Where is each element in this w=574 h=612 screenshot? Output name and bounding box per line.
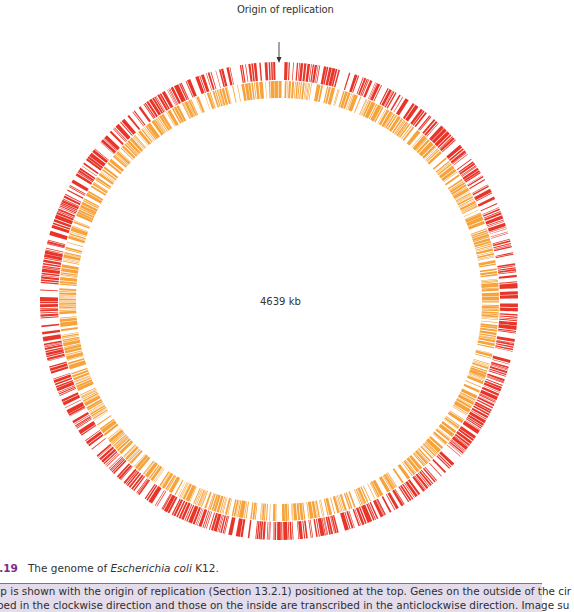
figure-number: 2.19 — [0, 562, 18, 574]
caption-line-1: ap is shown with the origin of replicati… — [0, 585, 571, 597]
caption-line-2: ibed in the clockwise direction and thos… — [0, 599, 569, 611]
origin-arrow-icon — [277, 42, 282, 63]
caption-text: ap is shown with the origin of replicati… — [0, 585, 574, 612]
origin-of-replication-label: Origin of replication — [237, 4, 327, 15]
figure-title: 2.19The genome of Escherichia coli K12. — [0, 562, 219, 574]
figure-title-species: Escherichia coli — [110, 562, 191, 574]
genome-size-label: 4639 kb — [260, 296, 301, 307]
figure-title-suffix: K12. — [192, 562, 219, 574]
figure-caption: ap is shown with the origin of replicati… — [0, 583, 542, 612]
figure-title-prefix: The genome of — [28, 562, 111, 574]
genome-map — [0, 0, 542, 560]
